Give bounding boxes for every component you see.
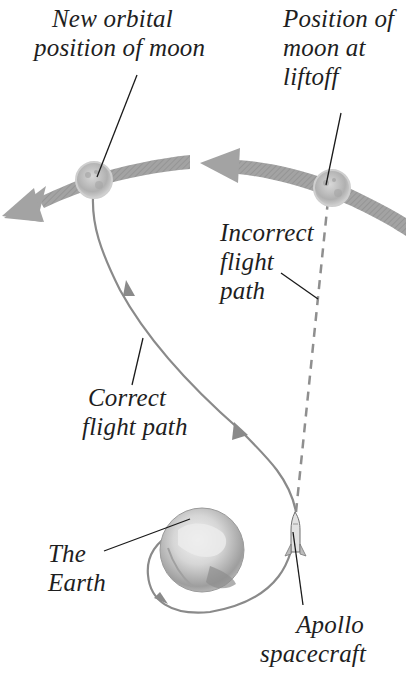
label-correct-flight-path: Correct flight path [82, 383, 212, 441]
label-incorrect-line1: Incorrect [220, 218, 330, 247]
label-liftoff-line1: Position of [283, 4, 405, 33]
label-correct-line2: flight path [82, 412, 212, 441]
label-earth-line1: The [48, 539, 118, 568]
label-new-moon-line2: position of moon [34, 33, 230, 62]
label-spacecraft-line2: spacecraft [260, 639, 364, 668]
moon-liftoff-position-icon [314, 170, 350, 206]
label-earth-line2: Earth [48, 568, 118, 597]
earth-globe-icon [160, 508, 244, 592]
label-new-moon-line1: New orbital [34, 4, 230, 33]
label-liftoff-line3: liftoff [283, 62, 405, 91]
leader-line-new-moon [97, 75, 137, 177]
label-apollo-spacecraft: Apollo spacecraft [260, 610, 364, 668]
label-incorrect-flight-path: Incorrect flight path [220, 218, 330, 305]
label-spacecraft-line1: Apollo [260, 610, 364, 639]
label-incorrect-line2: flight [220, 247, 330, 276]
label-liftoff-line2: moon at [283, 33, 405, 62]
moon-new-position-icon [76, 162, 112, 198]
label-correct-line1: Correct [82, 383, 212, 412]
label-moon-at-liftoff: Position of moon at liftoff [283, 4, 405, 91]
label-incorrect-line3: path [220, 276, 330, 305]
label-the-earth: The Earth [48, 539, 118, 597]
label-new-moon-position: New orbital position of moon [34, 4, 230, 62]
leader-line-correct-path [132, 338, 143, 385]
